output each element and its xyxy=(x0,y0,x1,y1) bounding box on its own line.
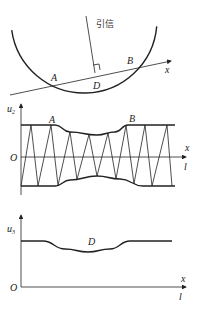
u3-label: u3 xyxy=(7,223,15,235)
point-b-label: B xyxy=(127,55,133,66)
fuze-signal-diagram: 引信 A D B x u2 O x l A B u3 O x l D xyxy=(0,0,197,313)
top-panel: 引信 A D B x xyxy=(10,16,171,95)
fuze-label: 引信 xyxy=(96,18,114,29)
envelope-top xyxy=(21,125,175,135)
x-axis-label: x xyxy=(164,64,170,75)
target-arc xyxy=(12,26,157,93)
point-b-label: B xyxy=(129,113,135,124)
origin-label: O xyxy=(10,282,17,293)
point-a-label: A xyxy=(50,72,58,83)
x-label: x xyxy=(184,142,190,153)
l-label: l xyxy=(179,291,182,302)
u2-label: u2 xyxy=(7,103,15,115)
point-d-label: D xyxy=(92,80,101,91)
origin-label: O xyxy=(10,152,17,163)
bottom-panel: u3 O x l D xyxy=(7,215,186,302)
middle-panel: u2 O x l A B xyxy=(7,103,190,195)
zigzag-signal xyxy=(21,125,172,186)
l-label: l xyxy=(184,161,187,172)
trajectory-x-axis xyxy=(10,61,171,95)
u3-curve xyxy=(21,241,172,252)
x-label: x xyxy=(180,273,186,284)
fuze-line xyxy=(86,16,95,73)
point-a-label: A xyxy=(48,114,56,125)
point-d-label: D xyxy=(87,236,96,247)
